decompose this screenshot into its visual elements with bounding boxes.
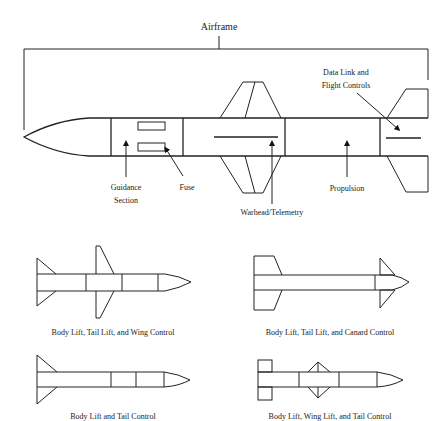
config-wing-control: Body Lift, Tail Lift, and Wing Control <box>37 246 191 337</box>
main-tail-fin-bottom <box>387 156 428 192</box>
guidance-label-line2: Section <box>114 196 138 205</box>
fuse-component-box <box>138 143 165 151</box>
tail-fin-bottom <box>258 387 272 400</box>
wing-bottom <box>308 387 330 398</box>
tail-fin-top <box>37 355 57 372</box>
tail-fin-bottom <box>37 291 56 306</box>
datalink-label-line2: Flight Controls <box>322 81 371 90</box>
config-wing-lift-tail-control: Body Lift, Wing Lift, and Tail Control <box>258 360 403 421</box>
airframe-label: Airframe <box>201 21 238 32</box>
propulsion-label: Propulsion <box>330 184 365 193</box>
config-caption: Body Lift, Wing Lift, and Tail Control <box>269 412 393 421</box>
tail-fin-top <box>37 258 56 274</box>
config-canard-control: Body Lift, Tail Lift, and Canard Control <box>254 256 409 337</box>
wing-top <box>96 246 114 274</box>
tail-fin-bottom <box>254 290 282 310</box>
guidance-label-line1: Guidance <box>111 183 142 192</box>
config-tail-control: Body Lift and Tail Control <box>37 355 190 421</box>
guidance-component-box <box>138 122 165 130</box>
warhead-label: Warhead/Telemetry <box>241 208 304 217</box>
nose-cone <box>24 118 89 156</box>
config-caption: Body Lift, Tail Lift, and Wing Control <box>52 328 176 337</box>
missile-configuration-figure: Airframe <box>0 0 443 421</box>
tail-fin-bottom <box>37 387 57 404</box>
fuse-label: Fuse <box>179 183 195 192</box>
main-wing-top <box>220 82 281 118</box>
wing-top <box>308 362 330 372</box>
tail-fin-top <box>258 360 272 372</box>
config-caption: Body Lift and Tail Control <box>70 412 156 421</box>
canard-bottom <box>380 290 395 308</box>
datalink-label-line1: Data Link and <box>323 68 369 77</box>
main-tail-fin-top <box>387 89 428 118</box>
canard-top <box>380 258 395 275</box>
config-caption: Body Lift, Tail Lift, and Canard Control <box>266 328 395 337</box>
wing-bottom <box>96 291 114 318</box>
fuse-arrow-icon <box>166 149 183 176</box>
tail-fin-top <box>254 256 282 275</box>
main-missile-diagram: Airframe <box>24 21 428 217</box>
